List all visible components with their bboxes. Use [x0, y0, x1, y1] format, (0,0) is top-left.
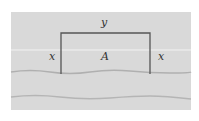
label-x-right: x: [158, 51, 164, 62]
label-area: A: [101, 51, 109, 62]
diagram-graphics: [0, 0, 199, 121]
river-far-bank-line: [11, 96, 191, 100]
riverbank-line: [11, 70, 191, 73]
label-y: y: [101, 17, 107, 28]
label-x-left: x: [49, 51, 55, 62]
